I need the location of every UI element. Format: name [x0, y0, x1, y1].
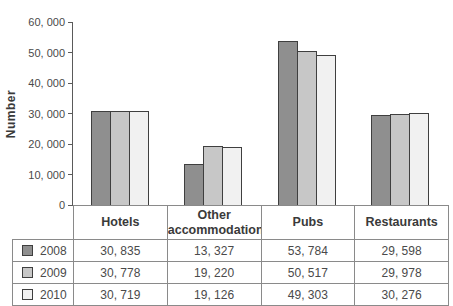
y-axis-title: Number [0, 22, 22, 205]
bar-2010-pubs [316, 55, 336, 205]
cell-2010-restaurants: 30, 276 [355, 284, 449, 306]
cell-2008-restaurants: 29, 598 [355, 240, 449, 262]
y-tick-label: 10, 000 [28, 169, 65, 181]
y-tick-label: 50, 000 [28, 47, 65, 59]
legend-swatch-2008 [22, 245, 33, 256]
table-row-2008: 2008 30, 835 13, 327 53, 784 29, 598 [13, 240, 449, 262]
cell-2009-restaurants: 29, 978 [355, 262, 449, 284]
cell-2009-other: 19, 220 [167, 262, 261, 284]
legend-year-label: 2008 [40, 244, 67, 258]
bar-2008-restaurants [371, 115, 391, 205]
legend-item-2008: 2008 [13, 240, 74, 262]
column-header-restaurants: Restaurants [355, 206, 449, 240]
cell-2009-hotels: 30, 778 [74, 262, 168, 284]
y-tick-label: 20, 000 [28, 138, 65, 150]
cell-2010-pubs: 49, 303 [261, 284, 355, 306]
bar-2009-restaurants [390, 114, 410, 205]
bar-2008-hotels [91, 111, 111, 205]
column-header-other-accommodation: Other accommodation [167, 206, 261, 240]
bar-2010-hotels [129, 111, 149, 205]
cell-2008-other: 13, 327 [167, 240, 261, 262]
legend-item-2009: 2009 [13, 262, 74, 284]
cell-2010-hotels: 30, 719 [74, 284, 168, 306]
table-row-2010: 2010 30, 719 19, 126 49, 303 30, 276 [13, 284, 449, 306]
table-row-2009: 2009 30, 778 19, 220 50, 517 29, 978 [13, 262, 449, 284]
legend-item-2010: 2010 [13, 284, 74, 306]
cell-2010-other: 19, 126 [167, 284, 261, 306]
bar-2009-other-accommodation [203, 146, 223, 205]
y-axis: 010, 00020, 00030, 00040, 00050, 00060, … [28, 22, 73, 205]
bar-2008-other-accommodation [184, 164, 204, 205]
bar-2010-other-accommodation [222, 147, 242, 205]
cell-2009-pubs: 50, 517 [261, 262, 355, 284]
y-tick-label: 40, 000 [28, 77, 65, 89]
bar-chart-figure: Number 010, 00020, 00030, 00040, 00050, … [0, 0, 453, 306]
data-table: Hotels Other accommodation Pubs Restaura… [12, 205, 449, 306]
bar-2010-restaurants [409, 113, 429, 205]
column-header-pubs: Pubs [261, 206, 355, 240]
plot-area [73, 22, 447, 205]
bar-2009-pubs [297, 51, 317, 205]
legend-swatch-2010 [22, 289, 33, 300]
y-tick-label: 30, 000 [28, 108, 65, 120]
table-header-row: Hotels Other accommodation Pubs Restaura… [13, 206, 449, 240]
legend-year-label: 2009 [40, 266, 67, 280]
table-corner-blank [13, 206, 74, 240]
bar-2009-hotels [110, 111, 130, 205]
legend-swatch-2009 [22, 267, 33, 278]
cell-2008-hotels: 30, 835 [74, 240, 168, 262]
column-header-hotels: Hotels [74, 206, 168, 240]
legend-year-label: 2010 [40, 288, 67, 302]
data-table-wrap: Hotels Other accommodation Pubs Restaura… [12, 205, 448, 306]
cell-2008-pubs: 53, 784 [261, 240, 355, 262]
y-tick-label: 60, 000 [28, 16, 65, 28]
bar-2008-pubs [278, 41, 298, 205]
